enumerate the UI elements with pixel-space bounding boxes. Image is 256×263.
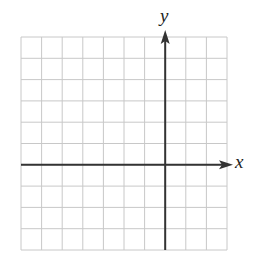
coordinate-plane	[0, 0, 256, 263]
x-axis-label: x	[235, 152, 243, 171]
axes	[21, 30, 233, 250]
y-axis-label: y	[160, 6, 168, 25]
grid-lines	[21, 37, 227, 250]
